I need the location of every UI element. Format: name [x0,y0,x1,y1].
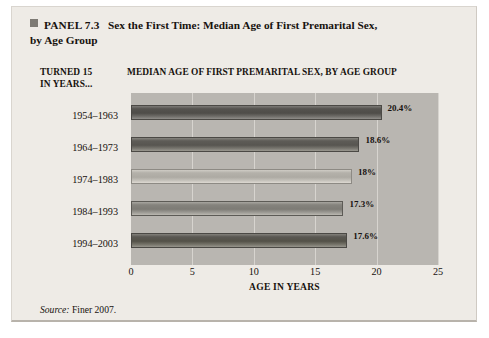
panel-header: PANEL 7.3 Sex the First Time: Median Age… [30,18,450,48]
category-label: 1954–1963 [32,100,124,132]
bar-value-label: 17.6% [353,231,378,241]
bar [131,137,359,152]
x-axis-ticks: 0510152025 [131,266,438,280]
bar [131,169,352,184]
x-axis-tick-label: 5 [190,266,195,277]
panel-tag: PANEL 7.3 [44,19,100,31]
bar-value-label: 17.3% [349,199,374,209]
panel-title-continued: by Age Group [30,33,450,48]
category-label-column: 1954–1963 1964–1973 1974–1983 1984–1993 … [32,100,124,260]
bar-row: 20.4% [131,100,438,132]
bar-row: 17.6% [131,228,438,260]
bar-value-label: 20.4% [388,103,413,113]
x-axis-tick-label: 15 [310,266,320,277]
source-text: Finer 2007. [72,304,116,315]
source-note: Source: Finer 2007. [40,304,116,315]
bar-row: 18.6% [131,132,438,164]
left-column-heading-line1: TURNED 15 [40,67,125,79]
x-axis-tick-label: 10 [249,266,259,277]
category-label: 1994–2003 [32,228,124,260]
bar-rows: 20.4% 18.6% 18% 17.3% 17.6% [131,100,438,260]
panel-container: PANEL 7.3 Sex the First Time: Median Age… [11,6,477,322]
gridline [438,93,439,265]
x-axis-title: AGE IN YEARS [131,281,438,292]
x-axis-tick-label: 25 [433,266,443,277]
category-label: 1964–1973 [32,132,124,164]
x-axis-tick-label: 0 [128,266,133,277]
bar-row: 18% [131,164,438,196]
left-column-heading: TURNED 15 IN YEARS... [40,67,125,90]
bar [131,233,347,248]
bar-row: 17.3% [131,196,438,228]
panel-title: Sex the First Time: Median Age of First … [108,19,377,31]
bar-value-label: 18% [358,167,376,177]
x-axis-tick-label: 20 [372,266,382,277]
left-column-heading-line2: IN YEARS... [40,79,125,91]
source-label: Source: [40,304,69,315]
category-label: 1974–1983 [32,164,124,196]
bar [131,201,343,216]
square-marker-icon [30,19,38,27]
category-label: 1984–1993 [32,196,124,228]
plot-area: 20.4% 18.6% 18% 17.3% 17.6% [131,93,438,265]
chart-heading: MEDIAN AGE OF FIRST PREMARITAL SEX, BY A… [127,67,397,77]
bar [131,105,382,120]
bar-value-label: 18.6% [365,135,390,145]
